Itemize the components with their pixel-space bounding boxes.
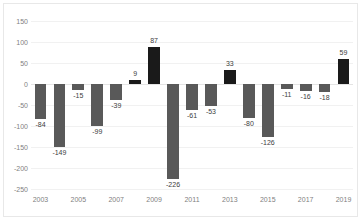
y-axis-tick-label: 0 — [2, 81, 28, 88]
bar — [167, 84, 179, 179]
y-axis-tick-label: -250 — [2, 186, 28, 193]
bar-value-label: -39 — [111, 102, 121, 109]
bar — [148, 47, 160, 84]
bar — [319, 84, 331, 92]
bar — [338, 59, 350, 84]
bar-value-label: -11 — [282, 91, 292, 98]
x-axis-tick-label: 2017 — [298, 196, 314, 203]
gridline — [31, 126, 353, 127]
bar-value-label: -61 — [187, 112, 197, 119]
bar-value-label: -226 — [166, 181, 180, 188]
bar-chart: 150100500-50-100-150-200-250 -84-149-15-… — [0, 0, 361, 220]
gridline — [31, 168, 353, 169]
bar — [281, 84, 293, 89]
x-axis-tick-label: 2005 — [71, 196, 87, 203]
y-axis-tick-labels: 150100500-50-100-150-200-250 — [0, 21, 28, 189]
y-axis-tick-label: -100 — [2, 123, 28, 130]
y-axis-tick-label: 50 — [2, 60, 28, 67]
x-axis-tick-label: 2007 — [108, 196, 124, 203]
bar — [205, 84, 217, 106]
bar-value-label: -80 — [244, 120, 254, 127]
gridline — [31, 147, 353, 148]
bar-value-label: 87 — [150, 37, 158, 44]
y-axis-tick-label: -150 — [2, 144, 28, 151]
bar — [54, 84, 66, 147]
bar-value-label: -99 — [92, 128, 102, 135]
bar — [300, 84, 312, 91]
y-axis-tick-label: -50 — [2, 102, 28, 109]
x-axis-tick-label: 2019 — [336, 196, 352, 203]
gridline — [31, 42, 353, 43]
bar — [243, 84, 255, 118]
x-axis-tick-label: 2003 — [33, 196, 49, 203]
y-axis-tick-label: -200 — [2, 165, 28, 172]
bar — [91, 84, 103, 126]
bar — [110, 84, 122, 100]
plot-area: -84-149-15-99-39987-226-61-5333-80-126-1… — [31, 21, 353, 189]
bar-value-label: -15 — [73, 92, 83, 99]
y-axis-tick-label: 100 — [2, 39, 28, 46]
x-axis-tick-label: 2013 — [222, 196, 238, 203]
bar-value-label: 9 — [133, 70, 137, 77]
x-axis-tick-label: 2015 — [260, 196, 276, 203]
x-axis-tick-label: 2011 — [184, 196, 199, 203]
gridline — [31, 21, 353, 22]
bar-value-label: -18 — [320, 94, 330, 101]
bar — [224, 70, 236, 84]
bar — [129, 80, 141, 84]
bar-value-label: -16 — [301, 93, 311, 100]
bar — [72, 84, 84, 90]
bar-value-label: 33 — [226, 60, 234, 67]
bar-value-label: -53 — [206, 108, 216, 115]
bar — [262, 84, 274, 137]
y-axis-tick-label: 150 — [2, 18, 28, 25]
bar-value-label: -149 — [52, 149, 66, 156]
bar — [186, 84, 198, 110]
bar — [35, 84, 47, 119]
gridline — [31, 63, 353, 64]
gridline — [31, 189, 353, 190]
x-axis-tick-labels: 200320052007200920112013201520172019 — [31, 192, 353, 208]
bar-value-label: -84 — [35, 121, 45, 128]
bar-value-label: -126 — [261, 139, 275, 146]
bar-value-label: 59 — [340, 49, 348, 56]
x-axis-tick-label: 2009 — [146, 196, 162, 203]
